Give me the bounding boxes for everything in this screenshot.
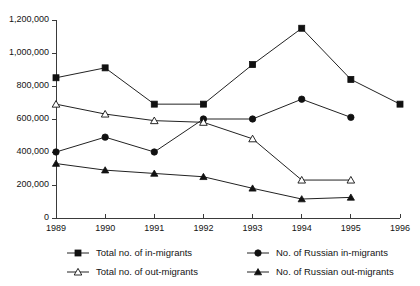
x-tick-label: 1994 bbox=[292, 223, 312, 233]
data-point-marker bbox=[348, 114, 354, 120]
migration-line-chart: 0200,000400,000600,000800,0001,000,0001,… bbox=[0, 0, 420, 286]
data-point-marker bbox=[102, 65, 108, 71]
data-point-marker bbox=[151, 149, 157, 155]
data-point-marker bbox=[299, 25, 305, 31]
x-tick-label: 1989 bbox=[46, 223, 66, 233]
legend-label: No. of Russian in-migrants bbox=[276, 247, 388, 258]
chart-legend: Total no. of in-migrantsNo. of Russian i… bbox=[67, 247, 394, 277]
y-tick-label: 800,000 bbox=[16, 80, 49, 90]
x-tick-label: 1992 bbox=[193, 223, 213, 233]
legend-label: No. of Russian out-migrants bbox=[276, 266, 394, 277]
x-tick-label: 1990 bbox=[95, 223, 115, 233]
y-tick-label: 1,000,000 bbox=[9, 47, 49, 57]
data-point-marker bbox=[102, 134, 108, 140]
series-3 bbox=[52, 101, 354, 184]
data-point-marker bbox=[299, 96, 305, 102]
legend-item[interactable]: No. of Russian out-migrants bbox=[247, 266, 394, 277]
x-axis-ticks: 19891990199119921993199419951996 bbox=[46, 214, 410, 233]
data-point-marker bbox=[397, 101, 403, 107]
data-point-marker bbox=[348, 76, 354, 82]
legend-item[interactable]: No. of Russian in-migrants bbox=[247, 247, 388, 258]
chart-canvas: 0200,000400,000600,000800,0001,000,0001,… bbox=[0, 0, 420, 286]
y-tick-label: 200,000 bbox=[16, 179, 49, 189]
x-tick-label: 1996 bbox=[390, 223, 410, 233]
legend-marker-filled-circle-icon bbox=[255, 250, 261, 256]
data-series-layer bbox=[52, 25, 403, 202]
data-point-marker bbox=[52, 101, 60, 108]
data-point-marker bbox=[53, 149, 59, 155]
x-tick-label: 1991 bbox=[144, 223, 164, 233]
legend-label: Total no. of out-migrants bbox=[96, 266, 198, 277]
data-point-marker bbox=[151, 101, 157, 107]
legend-label: Total no. of in-migrants bbox=[96, 247, 192, 258]
y-tick-label: 1,200,000 bbox=[9, 14, 49, 24]
series-1 bbox=[53, 25, 403, 107]
data-point-marker bbox=[52, 160, 59, 166]
legend-item[interactable]: Total no. of out-migrants bbox=[67, 266, 198, 277]
data-point-marker bbox=[250, 62, 256, 68]
x-tick-label: 1995 bbox=[341, 223, 361, 233]
series-line bbox=[56, 164, 351, 199]
y-tick-label: 400,000 bbox=[16, 146, 49, 156]
legend-item[interactable]: Total no. of in-migrants bbox=[67, 247, 192, 258]
data-point-marker bbox=[200, 101, 206, 107]
y-tick-label: 0 bbox=[44, 212, 49, 222]
data-point-marker bbox=[249, 135, 257, 142]
legend-marker-filled-square-icon bbox=[75, 250, 81, 256]
y-axis-ticks: 0200,000400,000600,000800,0001,000,0001,… bbox=[9, 14, 56, 222]
x-tick-label: 1993 bbox=[243, 223, 263, 233]
series-4 bbox=[52, 160, 354, 202]
y-tick-label: 600,000 bbox=[16, 113, 49, 123]
data-point-marker bbox=[53, 75, 59, 81]
data-point-marker bbox=[249, 116, 255, 122]
